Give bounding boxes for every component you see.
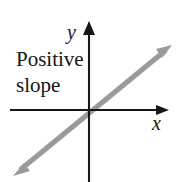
annotation-line-1: Positive bbox=[16, 47, 84, 71]
positive-slope-figure: y x Positive slope bbox=[0, 0, 180, 182]
y-axis-label: y bbox=[65, 21, 76, 44]
coordinate-plane-diagram: y x Positive slope bbox=[0, 0, 180, 182]
y-axis-arrowhead-icon bbox=[83, 21, 95, 35]
x-axis-label: x bbox=[151, 112, 161, 134]
y-axis bbox=[83, 21, 95, 182]
annotation-line-2: slope bbox=[16, 73, 60, 97]
